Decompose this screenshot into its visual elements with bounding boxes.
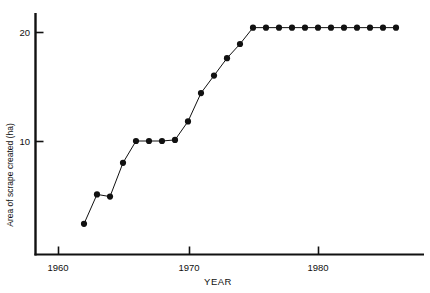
y-tick-label-10: 10 bbox=[19, 136, 30, 147]
data-point bbox=[133, 138, 139, 144]
y-axis-title: Area of scrape created (ha) bbox=[5, 123, 15, 227]
data-series bbox=[81, 25, 399, 227]
data-point bbox=[237, 41, 243, 47]
data-point bbox=[367, 25, 373, 31]
data-point bbox=[146, 138, 152, 144]
data-point bbox=[263, 25, 269, 31]
data-point bbox=[224, 55, 230, 61]
data-point bbox=[276, 25, 282, 31]
line-chart: 10 20 1960 1970 1980 YEAR Area of scrape… bbox=[0, 0, 430, 293]
x-tick-label-1980: 1980 bbox=[307, 262, 328, 273]
data-point bbox=[120, 160, 126, 166]
x-tick-label-1960: 1960 bbox=[47, 262, 68, 273]
y-tick-label-20: 20 bbox=[19, 27, 30, 38]
data-point bbox=[159, 138, 165, 144]
x-axis-title: YEAR bbox=[204, 276, 232, 287]
data-point bbox=[328, 25, 334, 31]
data-point bbox=[315, 25, 321, 31]
data-point bbox=[94, 191, 100, 197]
data-point bbox=[185, 118, 191, 124]
data-point bbox=[107, 193, 113, 199]
data-point bbox=[211, 73, 217, 79]
data-point bbox=[380, 25, 386, 31]
data-point bbox=[354, 25, 360, 31]
data-point bbox=[81, 221, 87, 227]
data-point bbox=[250, 25, 256, 31]
data-point bbox=[341, 25, 347, 31]
data-point bbox=[393, 25, 399, 31]
data-point bbox=[289, 25, 295, 31]
chart-container: 10 20 1960 1970 1980 YEAR Area of scrape… bbox=[0, 0, 430, 293]
data-point bbox=[302, 25, 308, 31]
data-point bbox=[198, 90, 204, 96]
series-line bbox=[84, 28, 396, 224]
x-tick-label-1970: 1970 bbox=[178, 262, 199, 273]
data-point bbox=[172, 137, 178, 143]
